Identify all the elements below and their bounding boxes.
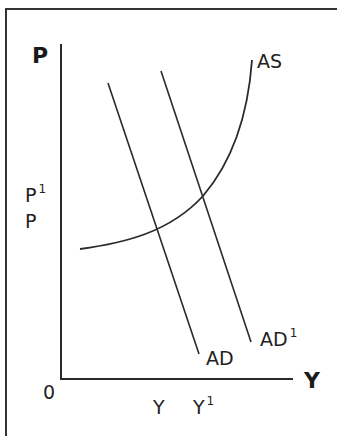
y-axis-label: P bbox=[32, 45, 48, 67]
ad1-curve bbox=[161, 71, 251, 342]
ad1-label: AD1 bbox=[260, 330, 297, 349]
price-label-p1: P1 bbox=[25, 186, 46, 205]
as-ad-diagram: P Y 0 P1 P Y Y1 AS AD AD1 bbox=[0, 0, 337, 436]
price-label-p: P bbox=[25, 212, 36, 231]
diagram-canvas bbox=[0, 0, 337, 436]
x-axis-label: Y bbox=[304, 370, 320, 392]
origin-label: 0 bbox=[43, 383, 55, 402]
output-label-y: Y bbox=[153, 398, 165, 417]
ad-label: AD bbox=[206, 349, 234, 368]
ad-curve bbox=[108, 83, 199, 354]
output-label-y1: Y1 bbox=[193, 398, 214, 417]
as-label: AS bbox=[257, 52, 282, 71]
